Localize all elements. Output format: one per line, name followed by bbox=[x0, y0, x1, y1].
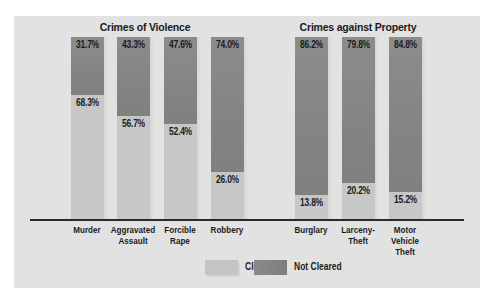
bar-murder: 31.7%68.3% bbox=[71, 37, 104, 220]
value-label-not-cleared: 43.3% bbox=[119, 39, 147, 50]
bar-segment-not-cleared bbox=[164, 37, 197, 124]
x-axis-line bbox=[30, 219, 464, 221]
bar-segment-not-cleared bbox=[389, 37, 422, 192]
bar-segment-not-cleared bbox=[295, 37, 328, 195]
bar-shadow bbox=[197, 37, 201, 220]
category-label: Burglary bbox=[286, 224, 337, 235]
legend-swatch-cleared bbox=[205, 260, 238, 275]
category-label: Aggravated Assault bbox=[108, 224, 159, 246]
value-label-not-cleared: 47.6% bbox=[166, 39, 194, 50]
category-label: Larceny- Theft bbox=[333, 224, 384, 246]
group-title-property: Crimes against Property bbox=[300, 21, 417, 33]
bar-larceny-theft: 79.8%20.2% bbox=[342, 37, 375, 220]
bar-shadow bbox=[375, 37, 379, 220]
bar-aggravated-assault: 43.3%56.7% bbox=[117, 37, 150, 220]
value-label-not-cleared: 79.8% bbox=[344, 39, 372, 50]
category-label: Murder bbox=[62, 224, 113, 235]
value-label-cleared: 15.2% bbox=[391, 194, 419, 205]
value-label-cleared: 20.2% bbox=[344, 185, 372, 196]
bar-burglary: 86.2%13.8% bbox=[295, 37, 328, 220]
value-label-cleared: 26.0% bbox=[213, 174, 241, 185]
value-label-not-cleared: 86.2% bbox=[297, 39, 325, 50]
bar-shadow bbox=[150, 37, 154, 220]
value-label-not-cleared: 84.8% bbox=[391, 39, 419, 50]
value-label-cleared: 68.3% bbox=[73, 97, 101, 108]
bar-segment-not-cleared bbox=[211, 37, 244, 172]
category-label: Motor Vehicle Theft bbox=[380, 224, 431, 257]
value-label-cleared: 56.7% bbox=[119, 118, 147, 129]
value-label-not-cleared: 74.0% bbox=[213, 39, 241, 50]
value-label-cleared: 52.4% bbox=[166, 126, 194, 137]
group-title-violence: Crimes of Violence bbox=[100, 21, 191, 33]
bar-segment-not-cleared bbox=[342, 37, 375, 183]
legend-label-not-cleared: Not Cleared bbox=[294, 261, 342, 272]
legend-swatch-not-cleared bbox=[254, 260, 287, 275]
category-label: Forcible Rape bbox=[155, 224, 206, 246]
bar-shadow bbox=[104, 37, 108, 220]
value-label-not-cleared: 31.7% bbox=[73, 39, 101, 50]
value-label-cleared: 13.8% bbox=[297, 197, 325, 208]
bar-forcible-rape: 47.6%52.4% bbox=[164, 37, 197, 220]
bar-shadow bbox=[328, 37, 332, 220]
bar-motor-vehicle-theft: 84.8%15.2% bbox=[389, 37, 422, 220]
bar-robbery: 74.0%26.0% bbox=[211, 37, 244, 220]
bar-shadow bbox=[422, 37, 426, 220]
category-label: Robbery bbox=[202, 224, 253, 235]
bar-shadow bbox=[244, 37, 248, 220]
